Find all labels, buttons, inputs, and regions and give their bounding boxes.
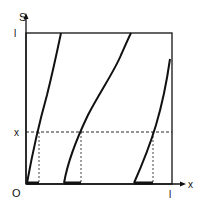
diagram: S l x O l x: [0, 0, 204, 204]
diagram-canvas: S l x O l x: [0, 0, 204, 204]
segment-1: [27, 182, 39, 185]
curve-1: [27, 33, 61, 183]
x-right-tick-label: l: [169, 189, 171, 200]
x-axis-arrow-icon: [180, 182, 186, 187]
y-top-tick-label: l: [14, 28, 16, 39]
x-axis-label: x: [188, 179, 193, 190]
curve-3: [134, 59, 170, 183]
segment-3: [134, 182, 153, 185]
curve-2: [64, 33, 131, 183]
unit-square: [26, 33, 172, 184]
origin-label: O: [12, 187, 21, 199]
segment-2: [64, 182, 81, 185]
s-axis-label: S: [19, 11, 26, 23]
level-label: x: [14, 127, 19, 138]
